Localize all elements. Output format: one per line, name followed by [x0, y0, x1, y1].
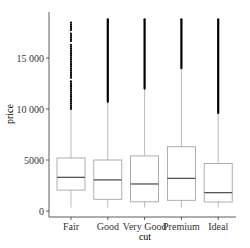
x-tick-label: Good: [97, 221, 119, 232]
box-fair: [57, 22, 85, 208]
boxplot-chart: 0500010 00015 000 FairGoodVery GoodPremi…: [0, 0, 250, 248]
y-tick-label: 5000: [24, 155, 44, 166]
iqr-box: [131, 156, 159, 202]
outliers: [70, 22, 72, 110]
x-axis-title: cut: [139, 231, 151, 242]
y-tick-label: 15 000: [17, 53, 45, 64]
box-good: [94, 19, 122, 207]
iqr-box: [57, 158, 85, 190]
box-very-good: [131, 19, 159, 207]
box-premium: [167, 19, 195, 207]
x-ticks: FairGoodVery GoodPremiumIdeal: [63, 217, 228, 232]
x-tick-label: Fair: [63, 221, 80, 232]
x-tick-label: Ideal: [208, 221, 228, 232]
boxes: [57, 19, 232, 207]
y-axis-title: price: [4, 103, 15, 124]
box-ideal: [204, 19, 232, 207]
y-tick-label: 0: [39, 206, 44, 217]
iqr-box: [167, 147, 195, 201]
y-tick-label: 10 000: [17, 104, 45, 115]
y-ticks: 0500010 00015 000: [17, 53, 50, 217]
x-tick-label: Premium: [163, 221, 200, 232]
iqr-box: [204, 164, 232, 202]
